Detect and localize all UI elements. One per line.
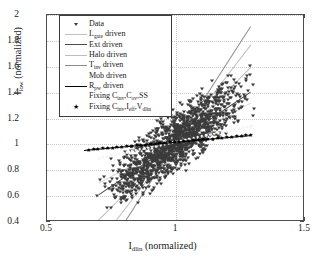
data-point: [166, 173, 170, 176]
data-point: [208, 114, 212, 117]
data-point: [233, 117, 237, 120]
data-point: [219, 91, 223, 94]
data-point: [144, 187, 148, 190]
data-point: [183, 159, 187, 162]
data-point: [178, 154, 182, 157]
data-point: [142, 161, 146, 164]
data-point: [171, 135, 175, 138]
data-point: [164, 154, 168, 157]
data-point: [227, 103, 231, 106]
legend-label: Ext driven: [89, 40, 123, 50]
data-point: [103, 183, 107, 186]
data-point: [239, 86, 243, 89]
data-point: [150, 164, 154, 167]
data-point: [136, 180, 140, 183]
data-point: [122, 156, 126, 159]
data-point: [224, 82, 228, 85]
data-point: [178, 159, 182, 162]
data-point: [194, 122, 198, 125]
y-tick-label: 0.6: [0, 190, 19, 200]
fixing-line-point: [114, 153, 117, 156]
data-point: [109, 207, 113, 210]
legend-label: Lgate driven: [89, 29, 125, 41]
legend-item-7[interactable]: Fixing Cinv,Cov,SS: [63, 92, 167, 102]
data-point: [200, 88, 204, 91]
x-axis-label-sub: dlin: [132, 245, 143, 252]
data-point: [200, 143, 204, 146]
data-point: [224, 124, 228, 127]
legend-label: Halo driven: [89, 50, 127, 60]
data-point: [115, 178, 119, 181]
data-point: [206, 106, 210, 109]
legend-line-icon: [63, 30, 89, 40]
legend-item-4[interactable]: Tinv driven: [63, 61, 167, 71]
data-point: [210, 79, 214, 82]
data-point: [170, 146, 174, 149]
y-tick-mark: [300, 221, 304, 222]
data-point: [171, 173, 175, 176]
data-point: [187, 162, 191, 165]
legend-triangle-icon: [63, 19, 89, 29]
data-point: [212, 119, 216, 122]
data-point: [158, 120, 162, 123]
data-point: [140, 184, 144, 187]
data-point: [198, 127, 202, 130]
data-point: [229, 75, 233, 78]
legend-item-1[interactable]: Lgate driven: [63, 29, 167, 39]
data-point: [245, 99, 249, 102]
fixing-line-point: [122, 152, 125, 155]
data-point: [184, 148, 188, 151]
data-point: [196, 157, 200, 160]
data-point: [251, 83, 255, 86]
legend-item-5[interactable]: Mob driven: [63, 71, 167, 81]
data-point: [236, 121, 240, 124]
data-point: [186, 156, 190, 159]
data-point: [127, 172, 131, 175]
data-point: [166, 160, 170, 163]
data-point: [159, 183, 163, 186]
y-tick-label: 1.8: [0, 35, 19, 45]
data-point: [200, 116, 204, 119]
fixing-line-point: [242, 126, 245, 129]
data-point: [130, 196, 134, 199]
data-point: [107, 188, 111, 191]
data-point: [175, 169, 179, 172]
data-point: [127, 157, 131, 160]
data-point: [155, 182, 159, 185]
legend-item-3[interactable]: Halo driven: [63, 50, 167, 60]
data-point: [246, 90, 250, 93]
data-point: [153, 151, 157, 154]
legend-item-8[interactable]: ★Fixing Cinv,Ieff,Vdlin: [63, 102, 167, 112]
data-point: [123, 195, 127, 198]
x-tick-mark: [304, 217, 305, 221]
y-tick-label: 1.4: [0, 87, 19, 97]
legend-item-6[interactable]: Rpw driven: [63, 81, 167, 91]
data-point: [223, 122, 227, 125]
star-marker: ★: [248, 132, 253, 138]
legend-item-0[interactable]: Data: [63, 19, 167, 29]
y-tick-label: 0.4: [0, 216, 19, 226]
data-point: [193, 111, 197, 114]
data-point: [151, 189, 155, 192]
data-point: [119, 202, 123, 205]
fixing-line-point: [234, 128, 237, 131]
data-point: [212, 112, 216, 115]
data-point: [169, 156, 173, 159]
y-tick-label: 1.6: [0, 61, 19, 71]
legend-line-icon: [63, 71, 89, 81]
data-point: [207, 128, 211, 131]
data-point: [142, 150, 146, 153]
data-point: [124, 200, 128, 203]
data-point: [177, 150, 181, 153]
data-point: [232, 122, 236, 125]
figure: Ilow (normalized) Idlin (normalized) 0.4…: [0, 0, 325, 266]
data-point: [206, 117, 210, 120]
data-point: [183, 163, 187, 166]
data-point: [148, 192, 152, 195]
data-point: [187, 100, 191, 103]
x-axis-label: Idlin (normalized): [0, 240, 325, 252]
fixing-line-point: [250, 125, 253, 128]
data-point: [188, 110, 192, 113]
legend-item-2[interactable]: Ext driven: [63, 40, 167, 50]
data-point: [166, 116, 170, 119]
